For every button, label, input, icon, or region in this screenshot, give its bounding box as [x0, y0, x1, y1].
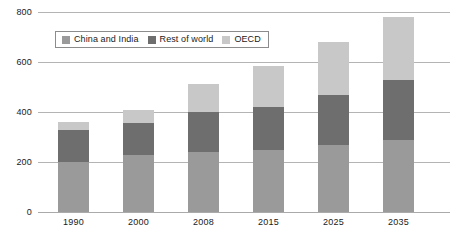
bar-2035[interactable] [383, 0, 414, 212]
bar-segment-2008-china-and-india[interactable] [188, 152, 219, 212]
bar-segment-2015-rest-of-world[interactable] [253, 107, 284, 150]
x-tick-label-1990: 1990 [44, 218, 104, 227]
legend-label: China and India [74, 35, 139, 44]
x-tick-label-2025: 2025 [304, 218, 364, 227]
y-tick-label-400: 400 [0, 108, 32, 117]
gridline-0 [38, 212, 450, 213]
legend-swatch-icon [62, 36, 70, 44]
bar-segment-2000-rest-of-world[interactable] [123, 123, 154, 155]
legend-label: Rest of world [160, 35, 214, 44]
bar-segment-2000-china-and-india[interactable] [123, 155, 154, 212]
bar-segment-2015-china-and-india[interactable] [253, 150, 284, 212]
y-tick-label-200: 200 [0, 158, 32, 167]
y-tick-label-0: 0 [0, 208, 32, 217]
bar-segment-1990-oecd[interactable] [58, 122, 89, 130]
bar-segment-2000-oecd[interactable] [123, 110, 154, 123]
legend-swatch-icon [148, 36, 156, 44]
y-tick-label-600: 600 [0, 58, 32, 67]
legend-item-oecd[interactable]: OECD [222, 35, 260, 44]
y-tick-label-800: 800 [0, 8, 32, 17]
x-tick-label-2015: 2015 [239, 218, 299, 227]
bar-segment-2015-oecd[interactable] [253, 66, 284, 107]
bar-segment-2025-oecd[interactable] [318, 42, 349, 95]
legend-swatch-icon [222, 36, 230, 44]
bar-segment-2008-rest-of-world[interactable] [188, 112, 219, 152]
legend-item-rest-of-world[interactable]: Rest of world [148, 35, 214, 44]
bar-segment-2008-oecd[interactable] [188, 84, 219, 112]
chart-page: 0200400600800 199020002008201520252035 C… [0, 0, 453, 238]
bar-segment-2035-china-and-india[interactable] [383, 140, 414, 212]
bar-2025[interactable] [318, 0, 349, 212]
bar-segment-2025-china-and-india[interactable] [318, 145, 349, 212]
bar-segment-1990-china-and-india[interactable] [58, 162, 89, 212]
bar-segment-1990-rest-of-world[interactable] [58, 130, 89, 162]
chart-legend: China and IndiaRest of worldOECD [55, 31, 269, 48]
bar-segment-2035-oecd[interactable] [383, 17, 414, 80]
legend-label: OECD [234, 35, 260, 44]
legend-item-china-and-india[interactable]: China and India [62, 35, 139, 44]
x-tick-label-2035: 2035 [369, 218, 429, 227]
x-tick-label-2000: 2000 [109, 218, 169, 227]
x-tick-label-2008: 2008 [174, 218, 234, 227]
bar-segment-2035-rest-of-world[interactable] [383, 80, 414, 140]
stacked-bar-chart: 0200400600800 199020002008201520252035 C… [0, 0, 453, 238]
bar-segment-2025-rest-of-world[interactable] [318, 95, 349, 145]
